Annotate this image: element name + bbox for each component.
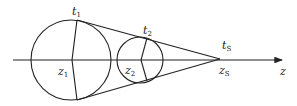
cone-tangent-diagram: t1 z1 t2 z2 tS zS z (0, 0, 297, 106)
label-z-axis: z (279, 65, 286, 78)
label-t2: t2 (143, 24, 152, 38)
tangent-line-bottom (77, 59, 220, 100)
radius-2-bottom (141, 60, 147, 81)
label-zs: zS (218, 64, 230, 78)
radius-1-bottom (72, 60, 77, 100)
label-t1: t1 (72, 5, 81, 19)
radius-1-top (72, 20, 77, 60)
label-z1: z1 (57, 65, 68, 79)
radius-2-top (141, 38, 147, 60)
tangent-line-top (77, 20, 220, 59)
label-z2: z2 (124, 64, 135, 78)
label-ts: tS (222, 39, 231, 53)
